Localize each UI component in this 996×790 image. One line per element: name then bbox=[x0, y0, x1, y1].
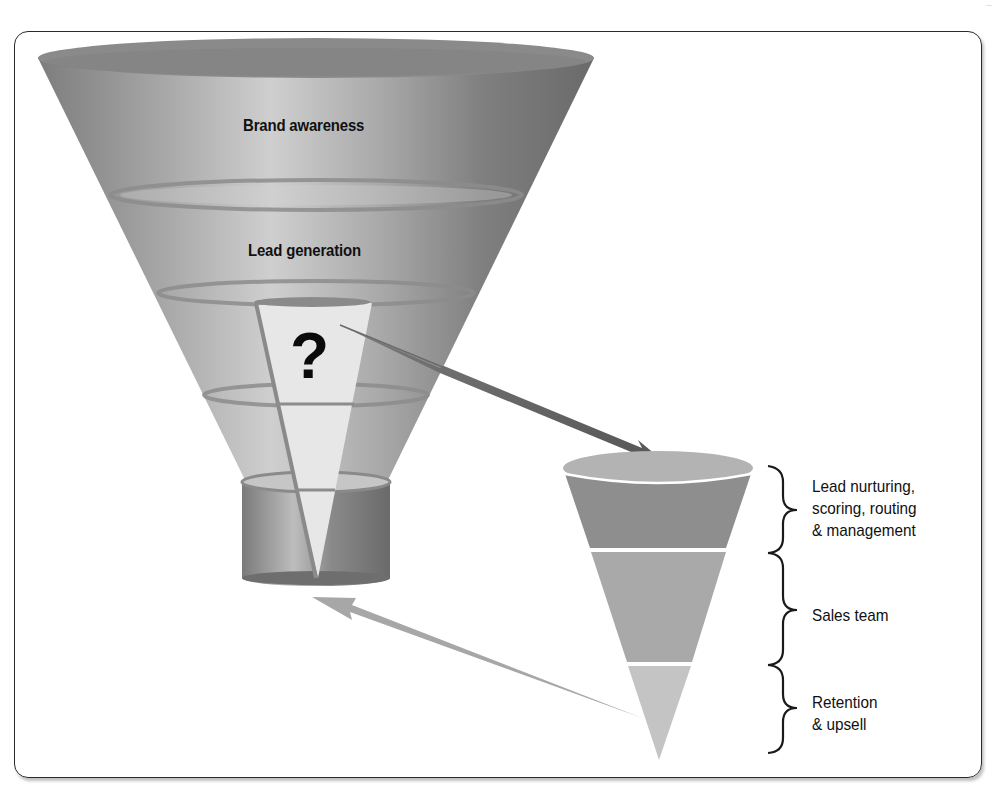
small-funnel-band-1 bbox=[565, 474, 751, 548]
brace-retention bbox=[768, 665, 797, 753]
stage-label-lead-generation: Lead generation bbox=[248, 241, 361, 261]
side-label-lead-nurturing: Lead nurturing, scoring, routing & manag… bbox=[812, 476, 917, 542]
small-funnel-band-3 bbox=[628, 666, 691, 760]
brace-sales-team bbox=[768, 553, 797, 665]
brace-lead-nurturing bbox=[768, 466, 797, 553]
question-mark: ? bbox=[290, 324, 329, 388]
side-label-sales-team: Sales team bbox=[812, 605, 889, 627]
stage-braces bbox=[768, 466, 797, 753]
funnel-diagram bbox=[0, 0, 996, 790]
small-funnel-band-2 bbox=[591, 552, 726, 662]
side-label-retention: Retention & upsell bbox=[812, 692, 878, 736]
small-funnel bbox=[563, 451, 753, 760]
feedback-arrow bbox=[312, 597, 642, 718]
stage-label-brand-awareness: Brand awareness bbox=[243, 116, 364, 136]
band-ring-1-inner bbox=[120, 185, 512, 205]
